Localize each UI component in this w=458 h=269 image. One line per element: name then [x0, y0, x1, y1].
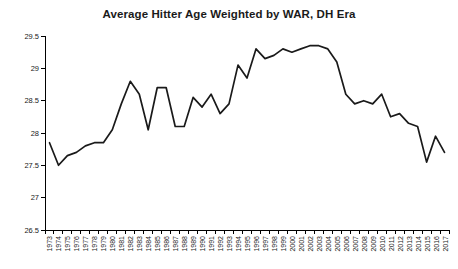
- x-axis-year-label: 2012: [397, 236, 404, 252]
- y-axis-tick-label: 27.5: [24, 161, 39, 170]
- x-axis-year-label: 1977: [82, 236, 89, 252]
- x-axis-year-label: 1995: [244, 236, 251, 252]
- x-axis-year-label: 2009: [370, 236, 377, 252]
- x-axis-year-label: 1999: [280, 236, 287, 252]
- chart-container: Average Hitter Age Weighted by WAR, DH E…: [0, 0, 458, 269]
- x-axis-year-label: 2001: [298, 236, 305, 252]
- x-axis-year-label: 1982: [127, 236, 134, 252]
- x-axis-year-label: 2000: [289, 236, 296, 252]
- y-axis-tick-label: 29.5: [24, 32, 39, 41]
- y-axis-tick-label: 27: [31, 193, 39, 202]
- x-axis-year-label: 2005: [334, 236, 341, 252]
- x-axis-year-label: 1991: [208, 236, 215, 252]
- x-axis-year-label: 1979: [100, 236, 107, 252]
- x-axis-year-label: 1985: [154, 236, 161, 252]
- x-axis-year-label: 1988: [181, 236, 188, 252]
- x-axis-year-label: 1976: [73, 236, 80, 252]
- y-axis-tick-label: 28.5: [24, 96, 39, 105]
- x-axis-year-label: 1980: [109, 236, 116, 252]
- x-axis-year-label: 1992: [217, 236, 224, 252]
- x-axis-year-label: 2003: [316, 236, 323, 252]
- x-axis-year-label: 1981: [118, 236, 125, 252]
- x-axis-year-label: 1986: [163, 236, 170, 252]
- x-axis-year-label: 2010: [379, 236, 386, 252]
- data-series-line: [50, 46, 445, 166]
- x-axis-year-label: 2004: [325, 236, 332, 252]
- x-axis-year-label: 1998: [271, 236, 278, 252]
- y-axis-tick-label: 26.5: [24, 226, 39, 235]
- x-axis-year-label: 2007: [352, 236, 359, 252]
- x-axis-year-label: 2014: [415, 236, 422, 252]
- line-chart: 26.52727.52828.52929.5197319741975197619…: [0, 0, 458, 269]
- x-axis-year-label: 2008: [361, 236, 368, 252]
- x-axis-year-label: 1994: [235, 236, 242, 252]
- x-axis-year-label: 2015: [424, 236, 431, 252]
- x-axis-year-label: 1978: [91, 236, 98, 252]
- y-axis-tick-label: 28: [31, 129, 39, 138]
- x-axis-year-label: 2006: [343, 236, 350, 252]
- x-axis-year-label: 2013: [406, 236, 413, 252]
- x-axis-year-label: 1993: [226, 236, 233, 252]
- x-axis-year-label: 1996: [253, 236, 260, 252]
- x-axis-year-label: 2016: [433, 236, 440, 252]
- x-axis-year-label: 2017: [442, 236, 449, 252]
- x-axis-year-label: 2002: [307, 236, 314, 252]
- x-axis-year-label: 1983: [136, 236, 143, 252]
- x-axis-year-label: 1987: [172, 236, 179, 252]
- x-axis-year-label: 2011: [388, 236, 395, 251]
- x-axis-year-label: 1973: [46, 236, 53, 252]
- x-axis-year-label: 1990: [199, 236, 206, 252]
- x-axis-year-label: 1974: [55, 236, 62, 252]
- x-axis-year-label: 1989: [190, 236, 197, 252]
- y-axis-tick-label: 29: [31, 64, 39, 73]
- x-axis-year-label: 1975: [64, 236, 71, 252]
- x-axis-year-label: 1984: [145, 236, 152, 252]
- x-axis-year-label: 1997: [262, 236, 269, 252]
